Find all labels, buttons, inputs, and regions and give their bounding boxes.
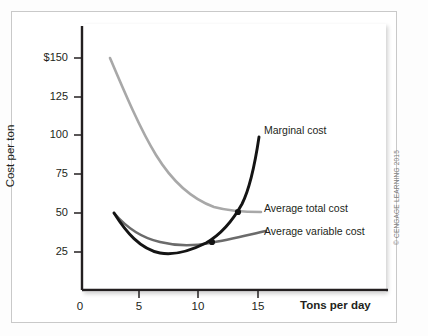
y-tick-label-75: 75 [20, 167, 68, 179]
mc-avc-intersection-dot [209, 239, 215, 245]
x-tick-label-15: 15 [240, 300, 276, 312]
curve-label-average-total-cost: Average total cost [264, 202, 348, 214]
y-axis-title: Cost per ton [4, 125, 16, 188]
y-tick-label-100: 100 [20, 128, 68, 140]
y-tick-label-25: 25 [20, 245, 68, 257]
copyright-notice: © CENGAGE LEARNING 2015 [393, 150, 400, 245]
x-tick-label-0: 0 [62, 300, 98, 312]
cost-curves-figure: $150 125 100 75 50 25 0 5 10 15 Cost per… [0, 0, 428, 336]
y-tick-label-50: 50 [20, 206, 68, 218]
curve-label-average-variable-cost: Average variable cost [264, 225, 365, 237]
y-tick-label-150: $150 [20, 51, 68, 63]
y-tick-label-125: 125 [20, 90, 68, 102]
curve-average-total-cost [110, 58, 261, 212]
x-axis-title: Tons per day [300, 299, 371, 311]
x-axis-ticks [139, 290, 258, 298]
mc-atc-intersection-dot [235, 209, 241, 215]
x-tick-label-5: 5 [121, 300, 157, 312]
curve-label-marginal-cost: Marginal cost [264, 124, 326, 136]
x-tick-label-10: 10 [180, 300, 216, 312]
